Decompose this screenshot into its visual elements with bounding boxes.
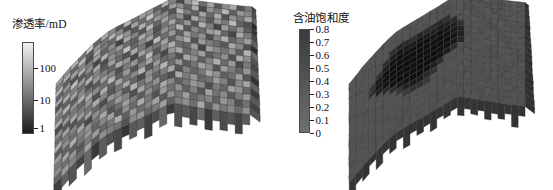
grid-cell [505,37,512,43]
grid-cell [206,45,214,52]
grid-cell [511,61,518,68]
grid-cell [205,102,213,110]
grid-cell [457,0,464,5]
grid-cell [190,67,198,74]
tick-label: 0.2 [316,101,330,112]
tick-label: 1 [40,122,46,133]
grid-cell [471,92,478,100]
grid-cell [244,6,252,12]
grid-cell [221,47,229,54]
grid-side-cell [498,103,505,120]
grid-cell [511,98,518,105]
grid-cell [214,3,222,9]
grid-cell [235,99,243,107]
grid-side-cell [511,105,518,128]
grid-cell [471,61,478,68]
grid-cell [457,77,464,84]
figure-canvas: 渗透率/mD 100101 含油饱和度 0.80.70.60.50.40.30.… [0,0,553,190]
grid-cell [198,62,206,69]
grid-side-cell [242,114,249,125]
grid-cell [229,5,237,11]
grid-cell [498,47,505,54]
grid-cell [229,31,237,37]
tick-mark [310,55,314,56]
grid-cell [485,88,492,95]
tick-label: 0.6 [316,49,330,60]
grid-cell [243,68,251,75]
grid-cell [505,10,512,16]
grid-cell [199,27,206,33]
grid-cell [243,62,251,69]
panel-permeability: 渗透率/mD 100101 [0,0,285,190]
grid-cell [518,33,525,39]
tick-label: 0 [316,127,322,138]
grid-cell [478,17,485,23]
grid-cell [190,55,198,62]
grid-cell [206,34,214,41]
grid-cell [471,85,478,93]
grid-cell [464,91,471,99]
grid-cell [457,15,464,21]
grid-cell [183,48,191,55]
grid-cell [491,24,498,31]
grid-cell [518,62,525,69]
grid-cell [498,0,505,5]
grid-cell [498,25,505,31]
grid-cell [190,99,198,107]
grid-cell [518,39,525,45]
grid-cell [228,60,236,67]
grid-cell [457,90,464,97]
grid-cell [236,61,244,68]
grid-cell [237,27,245,33]
grid-cell [242,107,250,114]
grid-cell [511,67,518,74]
grid-cell [505,78,512,85]
grid-cell [511,11,518,17]
grid-side-cell [197,107,205,120]
grid-cell [498,96,505,103]
grid-cell [212,103,220,111]
grid-cell [518,17,525,23]
colorbar-strip-oil-saturation [299,29,310,133]
grid-cell [518,80,525,87]
grid-cell [244,27,252,33]
tick-mark [34,68,38,69]
grid-cell [518,86,525,93]
grid-cell [498,90,505,97]
grid-cell [457,84,464,91]
tick-mark [310,94,314,95]
tick-mark [310,120,314,121]
grid-cell [512,27,519,33]
grid-cell [505,66,512,73]
grid-cell [235,74,243,81]
grid-cell [243,56,251,63]
grid-cell [518,28,525,34]
grid-cell [214,30,221,36]
grid-cell [457,65,464,71]
grid-cell [457,42,464,48]
grid-cell [237,21,245,27]
tick-label: 0.1 [316,114,330,125]
grid-side-cell [464,97,471,109]
grid-cell [518,22,525,28]
grid-cell [484,40,491,46]
grid-cell [478,12,485,18]
grid-cell [213,77,220,84]
grid-cell [518,50,525,57]
grid-cell [220,97,228,105]
grid-cell [206,51,214,58]
grid-cell [228,79,236,86]
grid-side-cell [114,127,122,152]
grid-cell [491,95,498,102]
grid-cell [457,4,464,10]
grid-cell [228,92,236,100]
grid-cell [505,97,512,105]
grid-cell [228,54,236,61]
grid-cell [197,94,205,102]
grid-cell [505,72,512,79]
grid-cell [192,0,200,6]
grid-cell [498,31,505,37]
grid-cell [498,5,505,11]
grid-cell [484,51,491,58]
grid-cell [213,65,221,72]
